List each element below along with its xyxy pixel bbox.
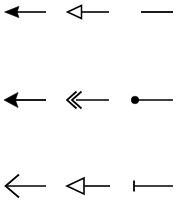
arrow-cell-hollow-triangle	[62, 0, 124, 29]
arrow-cell-plain-line	[125, 0, 187, 29]
double-chevron-arrow-icon	[62, 83, 124, 117]
hollow-triangle-large-arrow-icon	[62, 169, 124, 203]
plain-line-icon	[125, 0, 187, 29]
filled-triangle-arrow-icon	[0, 0, 62, 29]
open-barb-arrow-icon	[0, 169, 62, 203]
arrow-cell-filled-triangle	[0, 0, 62, 29]
arrow-style-grid	[0, 0, 187, 205]
arrow-cell-filled-triangle-wide	[0, 83, 62, 117]
arrow-cell-filled-dot	[125, 83, 187, 117]
arrow-cell-open-barb	[0, 169, 62, 203]
filled-dot-arrow-icon	[125, 83, 187, 117]
tee-bar-arrow-icon	[125, 169, 187, 203]
filled-triangle-wide-arrow-icon	[0, 83, 62, 117]
arrow-cell-double-chevron	[62, 83, 124, 117]
arrow-cell-tee-bar	[125, 169, 187, 203]
hollow-triangle-arrow-icon	[62, 0, 124, 29]
arrow-cell-hollow-triangle-large	[62, 169, 124, 203]
